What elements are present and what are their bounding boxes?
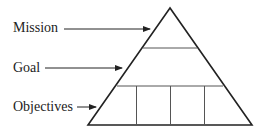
label-goal: Goal bbox=[13, 61, 40, 75]
label-mission: Mission bbox=[13, 21, 58, 35]
pyramid-diagram: Mission Goal Objectives bbox=[0, 0, 261, 133]
label-objectives: Objectives bbox=[13, 100, 73, 114]
